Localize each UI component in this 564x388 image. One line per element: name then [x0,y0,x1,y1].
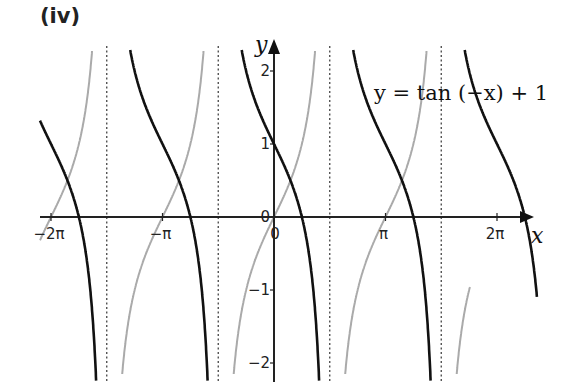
equation-label: y = tan (−x) + 1 [373,81,548,105]
x-axis-label: x [531,223,544,248]
y-axis-arrow-icon [268,39,280,54]
y-axis-label: y [254,32,268,57]
main-curve-branch [242,50,319,381]
main-curve-branch [40,121,96,381]
reference-curve-branch [122,51,203,374]
x-tick-label: 2π [486,225,505,243]
x-tick-label: −2π [33,225,64,243]
tan-graph: −2π−π0π2π210−1−2 x y y = tan (−x) + 1 [0,0,564,388]
reference-curve-branch [40,51,92,240]
x-tick-label: 0 [270,225,280,243]
x-tick-label: π [379,225,388,243]
y-tick-label: −1 [248,281,270,299]
main-curve-branch [130,50,207,381]
y-tick-label: −2 [248,354,270,372]
reference-curve-branch [457,287,470,374]
y-tick-label: 1 [260,135,270,153]
y-tick-label: 0 [260,208,270,226]
x-tick-label: −π [150,225,172,243]
y-tick-label: 2 [260,62,270,80]
